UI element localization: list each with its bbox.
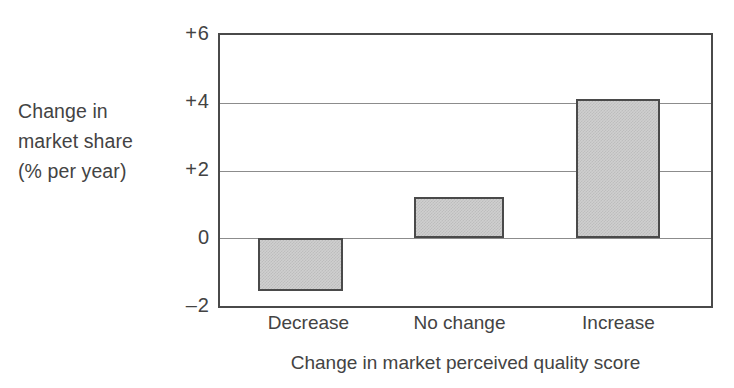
x-tick-label-no-change: No change	[372, 312, 547, 334]
y-tick-label-6: +6	[154, 23, 210, 43]
bar-no-change	[414, 197, 504, 238]
bar-increase	[576, 99, 660, 238]
y-tick-label-2: +2	[154, 159, 210, 179]
y-axis-tick-labels: +6 +4 +2 0 –2	[150, 0, 210, 388]
y-tick-label-4: +4	[154, 91, 210, 111]
bar-chart-figure: Change in market share (% per year) +6 +…	[0, 0, 734, 388]
y-tick-label-neg-2: –2	[154, 295, 210, 315]
bar-decrease	[258, 238, 343, 291]
x-tick-label-decrease: Decrease	[221, 312, 396, 334]
x-axis-title: Change in market perceived quality score	[218, 352, 713, 374]
y-tick-label-0: 0	[154, 227, 210, 247]
plot-area	[218, 33, 713, 308]
x-tick-label-increase: Increase	[531, 312, 706, 334]
